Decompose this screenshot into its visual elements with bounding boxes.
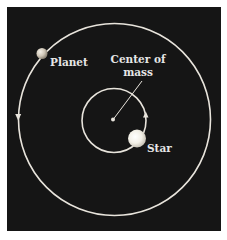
orbit-diagram: Planet Center of mass Star <box>0 0 227 240</box>
star-label: Star <box>147 142 172 154</box>
planet <box>37 48 48 59</box>
star <box>128 130 146 148</box>
center-of-mass-label-line2: mass <box>123 66 153 78</box>
planet-label: Planet <box>50 56 88 68</box>
center-of-mass-label-line1: Center of <box>111 53 167 65</box>
